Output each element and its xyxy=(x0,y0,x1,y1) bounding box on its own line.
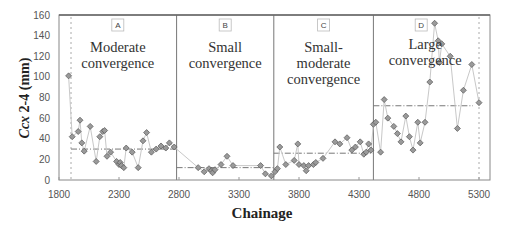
region-description: convergence xyxy=(189,55,262,71)
x-tick-label: 4300 xyxy=(348,189,371,200)
data-point-marker xyxy=(415,119,421,125)
y-tick-label: 0 xyxy=(44,175,50,186)
data-point-marker xyxy=(422,119,428,125)
data-point-marker xyxy=(469,62,475,68)
region-c: CSmall-moderateconvergence xyxy=(287,19,360,87)
region-letter: D xyxy=(418,21,424,30)
data-point-marker xyxy=(403,113,409,119)
x-tick-label: 3800 xyxy=(288,189,311,200)
region-letter: C xyxy=(321,21,327,30)
data-point-marker xyxy=(93,158,99,164)
data-point-marker xyxy=(410,147,416,153)
data-point-marker xyxy=(123,145,129,151)
data-point-marker xyxy=(97,134,103,140)
data-point-marker xyxy=(144,130,150,136)
x-axis-title: Chainage xyxy=(232,205,293,221)
y-axis-title: Ccx 2-4 (mm) xyxy=(17,57,33,138)
region-description: Moderate xyxy=(90,39,146,55)
region-description: convergence xyxy=(389,52,462,68)
region-labels: AModerateconvergenceBSmallconvergenceCSm… xyxy=(81,19,461,87)
data-point-marker xyxy=(129,149,135,155)
x-tick-label: 1800 xyxy=(48,189,71,200)
data-point-marker xyxy=(140,138,146,144)
data-point-marker xyxy=(381,97,387,103)
data-point-marker xyxy=(283,162,289,168)
data-point-marker xyxy=(454,125,460,131)
x-tick-label: 3300 xyxy=(228,189,251,200)
y-tick-label: 140 xyxy=(33,30,50,41)
y-tick-label: 120 xyxy=(33,51,50,62)
region-description: convergence xyxy=(81,55,154,71)
y-tick-label: 60 xyxy=(39,113,51,124)
data-point-marker xyxy=(378,149,384,155)
data-point-marker xyxy=(262,171,268,177)
data-point-marker xyxy=(460,87,466,93)
region-description: Small xyxy=(208,39,242,55)
data-point-marker xyxy=(79,140,85,146)
data-point-marker xyxy=(398,139,404,145)
region-description: Small- xyxy=(304,39,343,55)
y-tick-label: 160 xyxy=(33,10,50,21)
region-letter: B xyxy=(223,21,228,30)
region-dividers xyxy=(177,15,374,180)
data-point-marker xyxy=(476,100,482,106)
data-point-marker xyxy=(427,79,433,85)
y-axis-ticks: 020406080100120140160 xyxy=(33,10,50,186)
data-point-marker xyxy=(153,146,159,152)
data-point-marker xyxy=(366,141,372,147)
data-point-marker xyxy=(148,149,154,155)
data-point-marker xyxy=(417,140,423,146)
data-point-marker xyxy=(394,131,400,137)
region-d: DLargeconvergence xyxy=(389,19,462,68)
y-tick-label: 20 xyxy=(39,154,51,165)
data-point-marker xyxy=(277,144,283,150)
y-tick-label: 100 xyxy=(33,71,50,82)
region-description: convergence xyxy=(287,71,360,87)
y-tick-label: 80 xyxy=(39,92,51,103)
data-point-marker xyxy=(135,165,141,171)
data-point-marker xyxy=(406,134,412,140)
y-tick-label: 40 xyxy=(39,133,51,144)
data-point-marker xyxy=(87,123,93,129)
data-point-marker xyxy=(291,157,297,163)
x-tick-label: 2300 xyxy=(108,189,131,200)
data-point-marker xyxy=(295,141,301,147)
data-point-marker xyxy=(432,20,438,26)
region-a: AModerateconvergence xyxy=(81,19,154,71)
data-point-marker xyxy=(201,169,207,175)
x-tick-label: 5300 xyxy=(468,189,491,200)
convergence-chart: AModerateconvergenceBSmallconvergenceCSm… xyxy=(0,0,511,227)
data-point-marker xyxy=(77,117,83,123)
x-tick-label: 2800 xyxy=(168,189,191,200)
region-b: BSmallconvergence xyxy=(189,19,262,71)
region-letter: A xyxy=(115,21,121,30)
region-description: moderate xyxy=(297,55,351,71)
region-description: Large xyxy=(408,36,442,52)
x-tick-label: 4800 xyxy=(408,189,431,200)
data-point-marker xyxy=(296,162,302,168)
